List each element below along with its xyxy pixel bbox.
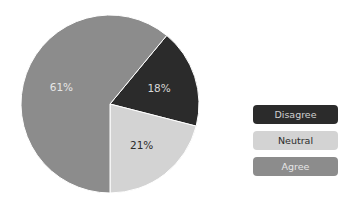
legend-item-disagree: Disagree (253, 105, 338, 124)
legend-label: Disagree (274, 109, 316, 120)
pie-label-disagree: 18% (147, 82, 170, 94)
pie-label-neutral: 21% (130, 139, 153, 151)
legend-label: Neutral (278, 135, 313, 146)
legend-item-agree: Agree (253, 157, 338, 176)
pie-label-agree: 61% (50, 81, 73, 93)
legend-label: Agree (282, 161, 310, 172)
legend-item-neutral: Neutral (253, 131, 338, 150)
legend: Disagree Neutral Agree (253, 105, 338, 183)
